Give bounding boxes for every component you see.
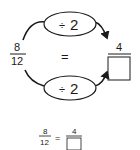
left-fraction: 8 12 — [10, 41, 26, 67]
right-fraction: 4 — [108, 41, 131, 80]
right-numerator: 4 — [116, 41, 122, 53]
summary-left-denominator: 12 — [40, 138, 49, 147]
equals-sign: = — [61, 49, 69, 64]
summary-right-denominator-blank-box[interactable] — [67, 138, 81, 150]
top-divide-value: 2 — [70, 16, 78, 33]
equation-summary: 8 12 = 4 — [39, 127, 82, 150]
right-denominator-blank-box[interactable] — [108, 57, 130, 80]
bottom-divide-symbol: ÷ — [59, 83, 65, 95]
top-divide-operation: ÷ 2 — [44, 12, 96, 36]
left-denominator: 12 — [11, 55, 23, 67]
top-divide-symbol: ÷ — [59, 19, 65, 31]
left-numerator: 8 — [14, 41, 20, 53]
summary-left-numerator: 8 — [43, 127, 48, 136]
bottom-divide-operation: ÷ 2 — [44, 76, 96, 100]
bottom-divide-value: 2 — [70, 80, 78, 97]
equivalent-fractions-diagram: ÷ 2 8 12 = 4 ÷ 2 8 12 = 4 — [0, 0, 140, 150]
summary-right-numerator: 4 — [72, 127, 77, 136]
summary-equals-sign: = — [55, 133, 60, 143]
